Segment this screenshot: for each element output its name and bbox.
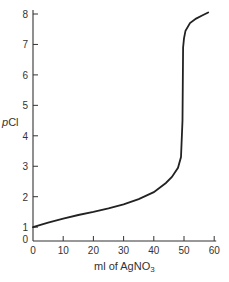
y-tick-label: 8: [22, 9, 28, 20]
x-tick-label: 0: [30, 245, 36, 256]
y-tick-label: 4: [22, 131, 28, 142]
y-tick-label: 6: [22, 70, 28, 81]
x-tick-label: 50: [178, 245, 190, 256]
x-axis-label: ml of AgNO3: [94, 260, 155, 274]
axes: [33, 10, 216, 241]
x-tick-label: 20: [88, 245, 100, 256]
x-tick-label: 30: [118, 245, 130, 256]
titration-chart: 0123456780102030405060 pCl ml of AgNO3: [0, 0, 229, 282]
y-tick-label: 3: [22, 161, 28, 172]
y-tick-label: 0: [22, 234, 28, 245]
y-tick-label: 7: [22, 39, 28, 50]
x-tick-label: 60: [209, 245, 221, 256]
y-axis-label: pCl: [1, 116, 19, 128]
ticks: 0123456780102030405060: [22, 9, 220, 256]
y-tick-label: 2: [22, 192, 28, 203]
y-tick-label: 1: [22, 222, 28, 233]
titration-curve: [33, 13, 208, 228]
x-tick-label: 40: [148, 245, 160, 256]
y-tick-label: 5: [22, 100, 28, 111]
x-tick-label: 10: [58, 245, 70, 256]
